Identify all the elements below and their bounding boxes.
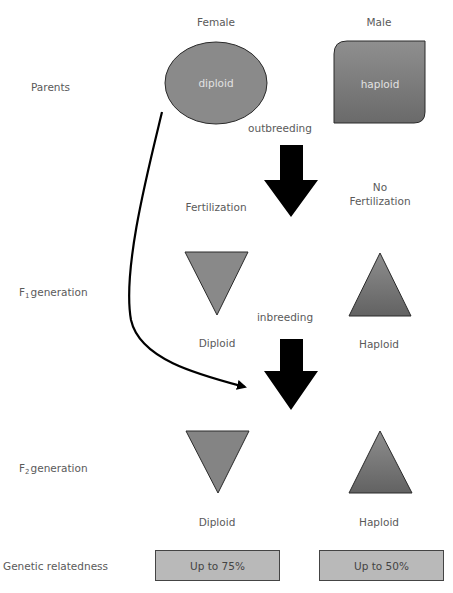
relatedness-male-value: Up to 50% <box>354 560 409 572</box>
female-shape-label: diploid <box>198 77 233 89</box>
relatedness-female-value: Up to 75% <box>190 560 245 572</box>
no-fertilization-line1: No <box>349 180 410 194</box>
f1-haploid-triangle <box>349 253 411 316</box>
f1-diploid-triangle <box>185 252 248 315</box>
f2-haploid-triangle <box>349 431 412 493</box>
f2-diploid-triangle <box>186 431 249 493</box>
male-shape-label: haploid <box>361 78 400 90</box>
fertilization-label: Fertilization <box>185 201 246 213</box>
row-label-genetic-relatedness: Genetic relatedness <box>3 560 108 572</box>
column-header-male: Male <box>367 16 392 28</box>
relatedness-male-box: Up to 50% <box>319 550 444 581</box>
outbreeding-label: outbreeding <box>248 122 312 134</box>
no-fertilization-label: No Fertilization <box>349 180 410 208</box>
f2-suffix: generation <box>31 462 88 474</box>
no-fertilization-line2: Fertilization <box>349 194 410 208</box>
f2-haploid-label: Haploid <box>359 516 399 528</box>
row-label-f1-generation: F1generation <box>19 286 88 300</box>
row-label-f2-generation: F2generation <box>19 462 88 476</box>
f2-subscript: 2 <box>25 468 29 476</box>
f1-subscript: 1 <box>25 292 29 300</box>
row-label-parents: Parents <box>31 81 70 93</box>
f2-diploid-label: Diploid <box>199 516 236 528</box>
relatedness-female-box: Up to 75% <box>155 550 280 581</box>
inbreeding-label: inbreeding <box>257 311 313 323</box>
f1-diploid-label: Diploid <box>199 337 236 349</box>
f1-suffix: generation <box>31 286 88 298</box>
column-header-female: Female <box>197 16 235 28</box>
outbreeding-arrow-icon <box>264 145 318 217</box>
inbreeding-arrow-icon <box>264 339 318 410</box>
f1-haploid-label: Haploid <box>359 338 399 350</box>
